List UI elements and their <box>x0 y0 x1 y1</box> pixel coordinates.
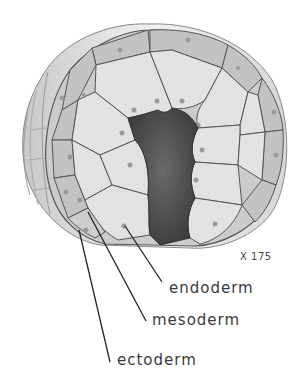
endoderm-label: endoderm <box>169 279 254 297</box>
mesoderm-label: mesoderm <box>152 311 240 329</box>
ectoderm-leader-line <box>79 230 110 362</box>
ectoderm-label: ectoderm <box>117 351 197 369</box>
magnification-label: X 175 <box>240 251 272 262</box>
